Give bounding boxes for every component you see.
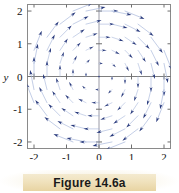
- x-tick-label: -2: [29, 151, 38, 161]
- field-arrow: [107, 90, 112, 95]
- figure-container: -2-1012-2-1012xy Figure 14.6a: [0, 0, 179, 193]
- field-arrow: [133, 90, 138, 102]
- field-arrow: [86, 19, 102, 24]
- figure-caption-label: Figure 14.6a: [53, 176, 125, 190]
- x-tick-label: 2: [161, 151, 167, 161]
- field-arrow: [125, 116, 138, 129]
- field-arrow: [25, 82, 34, 102]
- field-arrow: [60, 24, 73, 37]
- field-arrow: [125, 11, 145, 20]
- vector-field-plot: -2-1012-2-1012xy: [0, 0, 179, 160]
- field-arrow: [91, 101, 99, 103]
- field-arrow: [113, 116, 125, 125]
- field-arrow: [109, 129, 125, 138]
- field-arrow: [138, 63, 143, 75]
- field-arrow: [72, 69, 74, 77]
- field-arrow: [73, 42, 82, 51]
- field-arrow: [55, 77, 60, 89]
- field-arrow: [86, 6, 106, 11]
- field-arrow: [59, 65, 62, 77]
- field-arrow: [42, 74, 47, 90]
- field-arrow: [112, 24, 128, 29]
- field-arrow: [83, 127, 99, 130]
- field-arrow: [125, 37, 137, 46]
- field-arrow: [155, 103, 164, 123]
- figure-caption-band: Figure 14.6a: [23, 174, 156, 191]
- field-arrow: [138, 50, 147, 63]
- field-arrow: [99, 62, 103, 64]
- field-arrow: [95, 89, 99, 91]
- y-tick-label: -2: [13, 136, 22, 148]
- field-arrow: [34, 99, 47, 116]
- field-arrow: [100, 116, 112, 121]
- field-arrow: [121, 129, 138, 142]
- x-tick-label: 0: [96, 151, 102, 161]
- field-arrow: [151, 50, 160, 66]
- field-arrow: [151, 63, 156, 79]
- y-tick-label: -1: [13, 103, 22, 115]
- field-arrow: [138, 24, 155, 37]
- field-arrow: [125, 24, 141, 33]
- field-arrow: [96, 129, 112, 134]
- field-arrow: [164, 63, 169, 83]
- field-arrow: [43, 116, 60, 129]
- x-tick-label: 1: [129, 151, 135, 161]
- field-arrow: [112, 50, 120, 55]
- field-arrow: [159, 90, 164, 110]
- field-arrow: [60, 11, 77, 24]
- field-arrow: [98, 76, 100, 78]
- field-arrow: [116, 103, 125, 112]
- field-arrow: [51, 90, 60, 103]
- field-arrow: [53, 133, 73, 142]
- field-arrow: [99, 36, 111, 39]
- field-arrow: [111, 77, 113, 81]
- field-arrow: [124, 77, 126, 85]
- field-arrow: [137, 77, 140, 89]
- field-arrow: [125, 50, 134, 59]
- y-tick-label: 2: [17, 5, 23, 17]
- field-arrow: [47, 21, 60, 38]
- field-arrow: [99, 49, 107, 51]
- y-axis-label: y: [3, 71, 9, 83]
- field-arrow: [78, 98, 86, 103]
- field-arrow: [138, 37, 151, 50]
- field-arrow: [112, 37, 124, 42]
- field-arrow: [73, 55, 78, 63]
- field-arrow: [85, 73, 87, 77]
- field-arrow: [61, 107, 73, 116]
- field-arrow: [86, 59, 91, 64]
- field-arrow: [60, 38, 69, 51]
- field-arrow: [46, 61, 49, 77]
- field-arrow: [57, 120, 73, 129]
- y-tick-label: 1: [17, 38, 23, 50]
- field-arrow: [47, 34, 56, 50]
- field-arrow: [81, 85, 86, 90]
- x-tick-label: -1: [62, 151, 71, 161]
- field-arrow: [86, 32, 98, 37]
- field-arrow: [142, 103, 151, 119]
- field-arrow: [129, 103, 138, 116]
- field-arrow: [73, 28, 85, 37]
- field-arrow: [164, 50, 173, 70]
- field-arrow: [38, 86, 47, 102]
- field-arrow: [60, 51, 65, 63]
- field-arrow: [29, 70, 34, 90]
- field-arrow: [73, 15, 89, 24]
- field-arrow: [68, 81, 73, 89]
- field-arrow: [64, 94, 73, 103]
- field-arrow: [74, 111, 86, 116]
- field-arrow: [146, 90, 151, 106]
- field-arrow: [47, 47, 52, 63]
- field-arrow: [125, 63, 130, 71]
- field-arrow: [151, 37, 164, 54]
- field-arrow: [47, 103, 60, 116]
- field-arrow: [120, 90, 125, 98]
- field-arrow: [105, 142, 125, 151]
- field-arrow: [86, 45, 94, 50]
- field-arrow: [34, 30, 43, 50]
- field-arrow: [87, 114, 99, 117]
- arrow-group: [25, 2, 174, 152]
- y-tick-label: 0: [17, 71, 23, 83]
- vector-field-svg: -2-1012-2-1012xy: [0, 0, 179, 160]
- field-arrow: [112, 63, 117, 68]
